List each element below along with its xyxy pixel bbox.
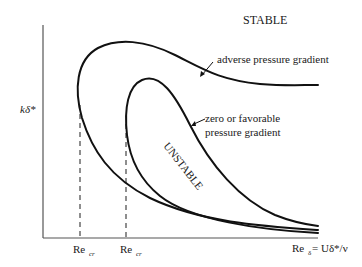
critical-re-label-1: Re cr [73, 243, 95, 258]
favorable-gradient-label-line1: zero or favorable [205, 112, 280, 124]
favorable-gradient-label-line2: pressure gradient [205, 126, 280, 138]
adverse-gradient-label: adverse pressure gradient [217, 53, 329, 65]
svg-text:Re: Re [120, 243, 132, 255]
svg-text:cr: cr [89, 250, 95, 258]
svg-text:Re: Re [292, 242, 304, 254]
svg-text:Re: Re [73, 243, 85, 255]
unstable-region-label: UNSTABLE [161, 140, 205, 192]
svg-text:cr: cr [136, 250, 142, 258]
svg-text:= Uδ*/ν: = Uδ*/ν [312, 242, 348, 254]
x-axis-label: Re δ = Uδ*/ν [292, 242, 348, 257]
adverse-gradient-curve [78, 42, 318, 230]
y-axis-label: kδ* [20, 103, 36, 115]
favorable-gradient-curve [126, 78, 318, 233]
favorable-arrowhead-icon [191, 121, 196, 126]
favorable-label-leader [194, 119, 205, 124]
stable-region-label: STABLE [243, 13, 287, 27]
stability-diagram: STABLE UNSTABLE adverse pressure gradien… [0, 0, 362, 267]
critical-re-label-2: Re cr [120, 243, 142, 258]
